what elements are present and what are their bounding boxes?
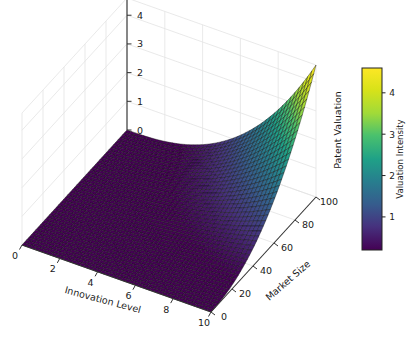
- x-tick-label: 4: [88, 277, 94, 288]
- z-axis-title: Patent Valuation: [332, 91, 343, 169]
- x-tick-label: 10: [198, 317, 210, 328]
- surface-plot-3d: 024681002040608010001234 Innovation Leve…: [0, 0, 411, 344]
- colorbar-tick-label: 2: [389, 171, 395, 181]
- colorbar-gradient[interactable]: [362, 68, 382, 250]
- colorbar-tick-label: 4: [389, 88, 395, 98]
- x-tick-label: 0: [12, 250, 18, 261]
- z-tick-label: 1: [137, 96, 143, 107]
- z-tick-label: 4: [137, 10, 143, 21]
- z-tick-label: 0: [137, 125, 143, 136]
- figure-canvas: 024681002040608010001234 Innovation Leve…: [0, 0, 411, 344]
- colorbar-tick-label: 3: [389, 130, 395, 140]
- y-tick-label: 80: [302, 219, 314, 230]
- y-tick-label: 100: [320, 196, 338, 207]
- x-tick-label: 8: [163, 304, 169, 315]
- y-tick-label: 20: [239, 288, 251, 299]
- colorbar-tick-label: 1: [389, 212, 395, 222]
- colorbar-title: Valuation Intensity: [395, 119, 405, 198]
- y-tick-label: 60: [281, 242, 293, 253]
- z-tick-label: 2: [137, 67, 143, 78]
- z-tick-label: 3: [137, 38, 143, 49]
- x-tick-label: 2: [50, 263, 56, 274]
- y-tick-label: 0: [221, 311, 227, 322]
- y-tick-label: 40: [260, 265, 272, 276]
